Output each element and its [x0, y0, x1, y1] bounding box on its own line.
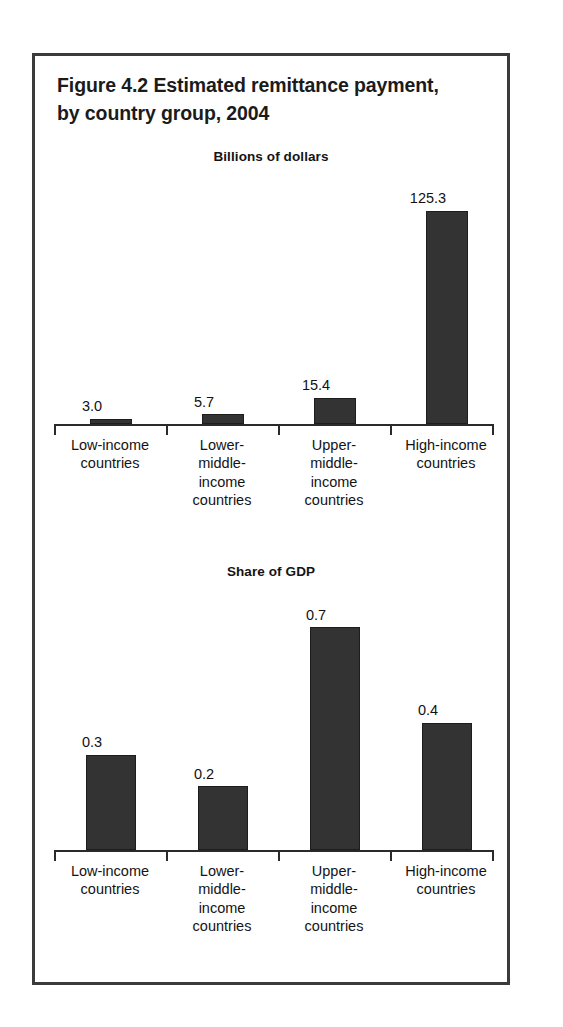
plot-area-share: 0.3 0.2 0.7 0.4 — [54, 592, 494, 852]
bar — [426, 211, 468, 425]
category-label: Lower- middle- income countries — [166, 436, 278, 509]
bar — [202, 414, 244, 424]
category-label: Upper- middle- income countries — [278, 436, 390, 509]
chart-1-subtitle: Billions of dollars — [35, 149, 507, 164]
bars-layer-billions: 3.0 5.7 15.4 125.3 — [54, 174, 494, 424]
page-title: Figure 4.2 Estimated remittance payment,… — [57, 72, 487, 127]
x-axis-billions — [54, 424, 494, 426]
axis-tick — [390, 426, 392, 435]
bar — [86, 755, 136, 850]
bar-value-label: 15.4 — [276, 378, 356, 393]
bar-value-label: 0.4 — [388, 703, 468, 718]
bars-layer-share: 0.3 0.2 0.7 0.4 — [54, 590, 494, 850]
bar-value-label: 0.2 — [164, 767, 244, 782]
axis-tick — [54, 426, 56, 435]
figure-frame: Figure 4.2 Estimated remittance payment,… — [32, 53, 510, 985]
bar-value-label: 0.7 — [276, 608, 356, 623]
category-label: High-income countries — [390, 436, 502, 473]
category-label: Upper- middle- income countries — [278, 862, 390, 935]
axis-tick — [278, 852, 280, 861]
axis-tick — [492, 426, 494, 435]
bar-value-label: 3.0 — [52, 399, 132, 414]
x-axis-share — [54, 850, 494, 852]
chart-2-subtitle: Share of GDP — [35, 564, 507, 579]
bar — [198, 786, 248, 850]
bar — [314, 398, 356, 424]
axis-tick — [54, 852, 56, 861]
bar — [422, 723, 472, 850]
bar-value-label: 5.7 — [164, 395, 244, 410]
axis-tick — [390, 852, 392, 861]
category-label: Lower- middle- income countries — [166, 862, 278, 935]
chart-billions-of-dollars: 3.0 5.7 15.4 125.3 — [54, 176, 494, 426]
bar-value-label: 0.3 — [52, 735, 132, 750]
chart-share-of-gdp: 0.3 0.2 0.7 0.4 — [54, 592, 494, 852]
category-label: Low-income countries — [54, 436, 166, 473]
category-label: Low-income countries — [54, 862, 166, 899]
category-label: High-income countries — [390, 862, 502, 899]
axis-tick — [166, 426, 168, 435]
plot-area-billions: 3.0 5.7 15.4 125.3 — [54, 176, 494, 426]
axis-tick — [278, 426, 280, 435]
bar — [310, 627, 360, 850]
bar-value-label: 125.3 — [388, 191, 468, 206]
axis-tick — [166, 852, 168, 861]
axis-tick — [492, 852, 494, 861]
